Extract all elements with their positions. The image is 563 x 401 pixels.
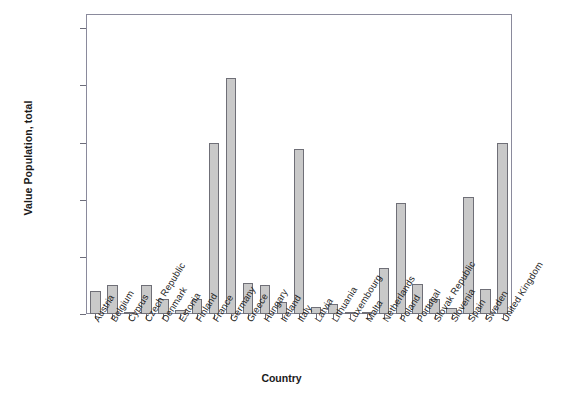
y-tick-mark xyxy=(80,200,86,201)
y-tick-mark xyxy=(80,314,86,315)
y-axis-title: Value Population, total xyxy=(22,68,34,248)
y-tick-mark xyxy=(80,257,86,258)
x-axis-title: Country xyxy=(0,372,563,384)
y-tick-mark xyxy=(80,85,86,86)
bar[interactable] xyxy=(497,143,508,314)
bar[interactable] xyxy=(209,143,220,314)
bars-container xyxy=(87,15,511,314)
bar[interactable] xyxy=(294,149,305,314)
y-tick-mark xyxy=(80,143,86,144)
bar[interactable] xyxy=(226,78,237,314)
y-tick-mark xyxy=(80,28,86,29)
population-bar-chart: Value Population, total 020,000,00040,00… xyxy=(0,0,563,401)
